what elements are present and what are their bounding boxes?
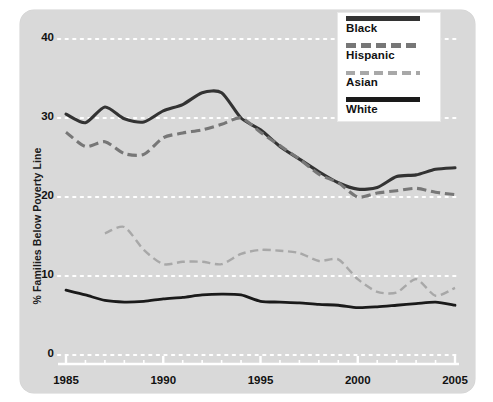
x-tick-label-1995: 1995 bbox=[233, 374, 289, 386]
axis-ticks bbox=[58, 356, 459, 364]
legend-line-white-icon bbox=[346, 97, 420, 102]
x-tick-label-1990: 1990 bbox=[135, 374, 191, 386]
legend-item-hispanic: Hispanic bbox=[338, 40, 440, 67]
legend: Black Hispanic Asian White bbox=[337, 12, 441, 122]
chart-root: % Families Below Poverty Line 010203040 … bbox=[0, 0, 493, 402]
legend-label-white: White bbox=[346, 103, 378, 115]
legend-item-asian: Asian bbox=[338, 67, 440, 94]
legend-item-white: White bbox=[338, 94, 440, 121]
legend-label-asian: Asian bbox=[346, 76, 378, 88]
y-axis-label-wrapper: % Families Below Poverty Line bbox=[0, 120, 138, 140]
x-tick-label-1985: 1985 bbox=[38, 374, 94, 386]
y-tick-label-30: 30 bbox=[20, 110, 54, 122]
series-line-white bbox=[66, 290, 455, 307]
series-line-asian bbox=[105, 227, 455, 296]
y-tick-label-40: 40 bbox=[20, 31, 54, 43]
legend-label-hispanic: Hispanic bbox=[346, 49, 395, 61]
legend-item-black: Black bbox=[338, 13, 440, 40]
y-axis-label: % Families Below Poverty Line bbox=[31, 126, 43, 326]
legend-line-hispanic-icon bbox=[346, 43, 420, 48]
y-tick-label-20: 20 bbox=[20, 189, 54, 201]
y-tick-label-0: 0 bbox=[20, 347, 54, 359]
legend-label-black: Black bbox=[346, 22, 377, 34]
legend-line-asian-icon bbox=[346, 71, 420, 75]
x-tick-label-2000: 2000 bbox=[330, 374, 386, 386]
y-tick-label-10: 10 bbox=[20, 268, 54, 280]
legend-line-black-icon bbox=[346, 16, 420, 21]
x-tick-label-2005: 2005 bbox=[427, 374, 483, 386]
